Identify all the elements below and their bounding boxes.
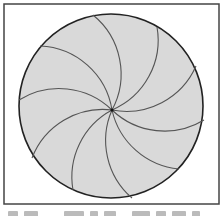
caption-cutoff	[0, 211, 223, 216]
center-point	[110, 108, 113, 111]
spiral-disk-diagram	[0, 0, 223, 216]
